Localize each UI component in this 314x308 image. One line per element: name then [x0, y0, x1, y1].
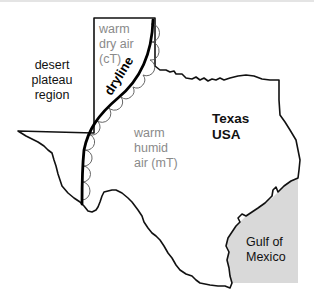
gulf-label-line2: Mexico	[246, 250, 286, 265]
desert-label-line2: plateau	[26, 73, 78, 88]
state-label-line2: USA	[212, 127, 249, 143]
dry-air-line1: warm	[99, 22, 134, 37]
humid-air-line2: humid	[134, 141, 178, 156]
texas-usa-label: Texas USA	[212, 111, 249, 143]
gulf-of-mexico-label: Gulf of Mexico	[246, 235, 286, 265]
desert-label-line3: region	[26, 88, 78, 103]
texas-dryline-map: desert plateau region warm dry air (cT) …	[0, 0, 314, 308]
desert-plateau-label: desert plateau region	[26, 58, 78, 102]
dry-air-line2: dry air	[99, 37, 134, 52]
state-label-line1: Texas	[212, 111, 249, 127]
gulf-label-line1: Gulf of	[246, 235, 286, 250]
humid-air-line3: air (mT)	[134, 156, 178, 171]
gulf-of-mexico-area	[226, 178, 298, 283]
humid-air-line1: warm	[134, 126, 178, 141]
warm-humid-air-label: warm humid air (mT)	[134, 126, 178, 170]
desert-label-line1: desert	[26, 58, 78, 73]
